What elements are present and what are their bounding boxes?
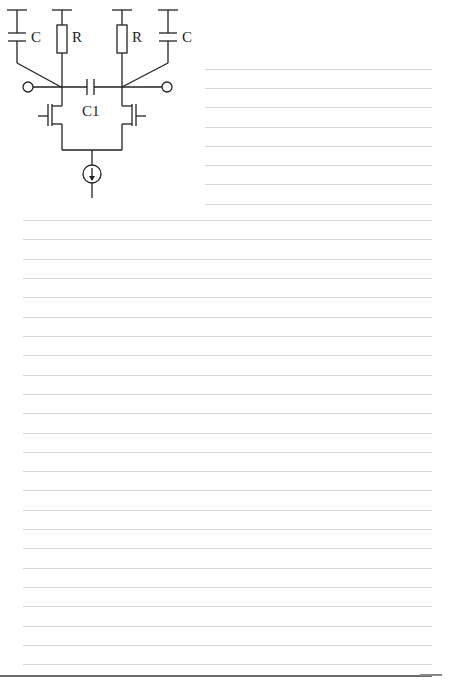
ruled-line: [23, 336, 432, 337]
ruled-line: [23, 645, 432, 646]
ruled-line: [23, 626, 432, 627]
label-cap-right: C: [182, 29, 192, 45]
ruled-line: [23, 278, 432, 279]
ruled-line: [23, 259, 432, 260]
ruled-line: [23, 220, 432, 221]
label-cap-left: C: [31, 29, 41, 45]
ruled-line: [23, 664, 432, 665]
ruled-line: [23, 606, 432, 607]
ruled-line: [205, 88, 432, 89]
ruled-line: [23, 490, 432, 491]
ruled-line: [23, 239, 432, 240]
ruled-line: [23, 394, 432, 395]
ruled-line: [205, 184, 432, 185]
ruled-line: [205, 146, 432, 147]
ruled-line: [23, 587, 432, 588]
ruled-line: [205, 107, 432, 108]
label-res-right: R: [132, 29, 142, 45]
ruled-line: [23, 548, 432, 549]
ruled-line: [23, 433, 432, 434]
ruled-line: [205, 69, 432, 70]
label-coupling-cap: C1: [82, 103, 100, 119]
ruled-line: [23, 452, 432, 453]
ruled-line: [23, 529, 432, 530]
ruled-line: [23, 375, 432, 376]
label-res-left: R: [72, 29, 82, 45]
ruled-line: [23, 317, 432, 318]
ruled-line: [205, 165, 432, 166]
ruled-line: [23, 510, 432, 511]
ruled-line: [205, 204, 432, 205]
bottom-rule: [0, 675, 432, 677]
ruled-line: [23, 355, 432, 356]
ruled-line: [23, 297, 432, 298]
circuit-diagram: C R R C C1: [0, 0, 200, 210]
ruled-line: [205, 127, 432, 128]
bottom-tab-mark: [420, 674, 442, 676]
ruled-line: [23, 413, 432, 414]
ruled-line: [23, 568, 432, 569]
ruled-line: [23, 471, 432, 472]
